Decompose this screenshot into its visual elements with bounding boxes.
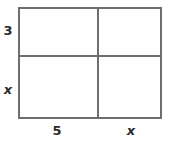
area-model-figure: 3 x 5 x bbox=[0, 0, 173, 142]
label-bottom-right-width: x bbox=[105, 124, 157, 137]
rectangle-outline bbox=[18, 7, 162, 119]
horizontal-divider-line bbox=[18, 55, 162, 57]
vertical-divider-line bbox=[97, 7, 99, 119]
label-left-bottom-height: x bbox=[0, 83, 16, 96]
label-left-top-height: 3 bbox=[0, 24, 16, 37]
label-bottom-left-width: 5 bbox=[30, 124, 84, 137]
